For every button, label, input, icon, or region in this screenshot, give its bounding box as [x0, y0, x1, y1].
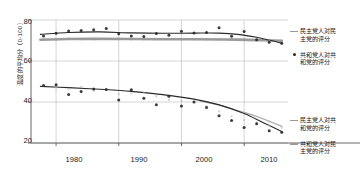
legend-label: 共和党人对民 主党的评分 [300, 140, 360, 155]
legend-bottom: 民主党人对共 和党的评分 共和党人对民 主党的评分 [290, 109, 360, 163]
legend-item-dem-rates-dem: 民主党人对民 主党的评分 [290, 27, 360, 42]
legend-label: 民主党人对民 主党的评分 [300, 27, 360, 42]
legend-item-dem-rates-rep: 民主党人对共 和党的评分 [290, 116, 360, 131]
legend-label: 民主党人对共 和党的评分 [300, 116, 360, 131]
dot-marker-icon [290, 51, 300, 59]
line-marker-icon [290, 116, 300, 124]
line-marker-icon [290, 140, 300, 148]
trend-lines [40, 32, 281, 132]
line-marker-icon [290, 27, 300, 35]
legend-label: 共和党人对共 和党的评分 [300, 51, 360, 66]
legend-item-rep-rates-dem: 共和党人对民 主党的评分 [290, 140, 360, 155]
chart-figure: 温度的平均分（0-100） 80 60 40 20 1980 1990 2000… [0, 0, 360, 179]
legend-item-rep-rates-rep: 共和党人对共 和党的评分 [290, 51, 360, 66]
data-points [42, 26, 283, 134]
legend-top: 民主党人对民 主党的评分 共和党人对共 和党的评分 [290, 20, 360, 74]
